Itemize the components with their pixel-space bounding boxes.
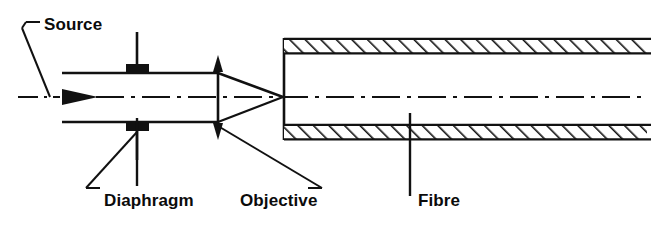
beam-direction-arrow [62,89,98,105]
label-objective: Objective [240,192,317,209]
diagram-svg [0,0,657,234]
label-fibre: Fibre [418,192,460,209]
figure-canvas: Source Diaphragm Objective Fibre [0,0,657,234]
label-diaphragm: Diaphragm [104,192,194,209]
fibre-cladding-top-bar [284,38,651,54]
fibre-cladding [284,38,651,140]
fibre-cladding-bottom-bar [284,124,651,140]
label-source: Source [44,16,102,33]
